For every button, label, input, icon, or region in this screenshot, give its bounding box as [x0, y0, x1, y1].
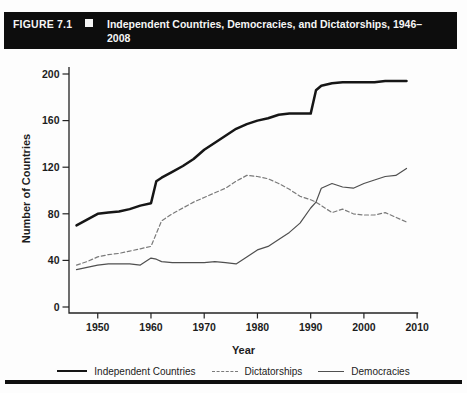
solid-thick-line-sample [57, 370, 87, 372]
legend-item-independent-countries: Independent Countries [57, 366, 195, 377]
x-tick-label: 1990 [299, 321, 323, 333]
x-tick-label: 1980 [246, 321, 270, 333]
independent-countries-line [77, 81, 407, 225]
legend-label: Dictatorships [245, 366, 303, 377]
axis-line [69, 67, 418, 313]
x-tick-label: 2000 [352, 321, 376, 333]
democracies-line [77, 168, 407, 269]
legend: Independent Countries Dictatorships Demo… [0, 364, 467, 378]
line-chart: 0408012016020019501960197019801990200020… [0, 52, 467, 342]
x-tick-label: 1960 [139, 321, 163, 333]
square-bullet-icon [85, 19, 93, 27]
x-tick-label: 1950 [86, 321, 110, 333]
figure-header: FIGURE 7.1 Independent Countries, Democr… [4, 12, 457, 49]
figure-title: Independent Countries, Democracies, and … [107, 18, 437, 45]
solid-thin-line-sample [318, 371, 344, 372]
y-tick-label: 80 [48, 208, 60, 220]
y-tick-label: 40 [48, 254, 60, 266]
figure-7-1: FIGURE 7.1 Independent Countries, Democr… [0, 0, 467, 393]
legend-label: Democracies [351, 366, 409, 377]
dictatorships-line [77, 175, 407, 265]
y-tick-label: 0 [54, 301, 60, 313]
x-axis-title: Year [69, 344, 418, 356]
bottom-rule [5, 380, 462, 384]
y-tick-label: 120 [42, 161, 60, 173]
legend-item-dictatorships: Dictatorships [212, 366, 303, 377]
x-tick-label: 2010 [405, 321, 429, 333]
dashed-line-sample [212, 371, 238, 372]
x-tick-label: 1970 [193, 321, 217, 333]
y-tick-label: 200 [42, 68, 60, 80]
legend-label: Independent Countries [94, 366, 195, 377]
figure-label: FIGURE 7.1 [13, 18, 85, 30]
legend-item-democracies: Democracies [318, 366, 409, 377]
y-tick-label: 160 [42, 114, 60, 126]
